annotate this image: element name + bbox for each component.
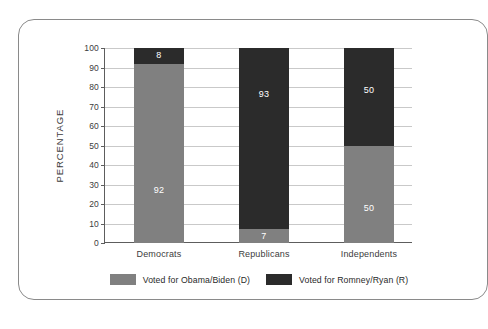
y-axis-tick-label: 80 bbox=[89, 82, 99, 92]
y-axis-tick-label: 70 bbox=[89, 102, 99, 112]
x-axis-category-label: Republicans bbox=[209, 249, 319, 259]
y-axis-tickmark bbox=[101, 126, 105, 127]
bar-value-label: 7 bbox=[261, 232, 266, 241]
y-axis-tick-label: 90 bbox=[89, 63, 99, 73]
bar-value-label: 50 bbox=[364, 204, 375, 213]
y-axis-tick-label: 0 bbox=[94, 238, 99, 248]
y-axis-tick-label: 20 bbox=[89, 199, 99, 209]
y-axis-tickmark bbox=[101, 48, 105, 49]
bar-group[interactable]: 5050 bbox=[344, 48, 394, 243]
legend-color-swatch bbox=[110, 274, 136, 285]
y-axis-title: PERCENTAGE bbox=[52, 48, 66, 243]
y-axis-tickmark bbox=[101, 68, 105, 69]
legend-entry[interactable]: Voted for Romney/Ryan (R) bbox=[266, 274, 408, 285]
legend-label: Voted for Romney/Ryan (R) bbox=[299, 275, 408, 285]
legend-label: Voted for Obama/Biden (D) bbox=[143, 275, 250, 285]
bar-value-label: 50 bbox=[364, 86, 375, 95]
x-axis-category-label: Democrats bbox=[104, 249, 214, 259]
y-axis-tick-label: 50 bbox=[89, 141, 99, 151]
x-axis-category-label: Independents bbox=[314, 249, 424, 259]
bar-segment-romney-ryan[interactable]: 93 bbox=[239, 48, 289, 229]
y-axis-tickmark bbox=[101, 224, 105, 225]
bar-segment-romney-ryan[interactable]: 50 bbox=[344, 48, 394, 146]
chart-legend: Voted for Obama/Biden (D)Voted for Romne… bbox=[104, 274, 414, 285]
y-axis-tickmark bbox=[101, 185, 105, 186]
y-axis-tickmark bbox=[101, 107, 105, 108]
bar-segment-romney-ryan[interactable]: 8 bbox=[134, 48, 184, 64]
bar-segment-obama-biden[interactable]: 92 bbox=[134, 64, 184, 243]
legend-entry[interactable]: Voted for Obama/Biden (D) bbox=[110, 274, 250, 285]
bar-value-label: 93 bbox=[259, 90, 270, 99]
bar-value-label: 8 bbox=[156, 51, 161, 60]
legend-color-swatch bbox=[266, 274, 292, 285]
y-axis-tick-label: 60 bbox=[89, 121, 99, 131]
y-axis-tickmark bbox=[101, 87, 105, 88]
y-axis-tick-label: 30 bbox=[89, 180, 99, 190]
y-axis-tickmark bbox=[101, 165, 105, 166]
y-axis-tickmark bbox=[101, 243, 105, 244]
y-axis-tick-label: 10 bbox=[89, 219, 99, 229]
bar-group[interactable]: 793 bbox=[239, 48, 289, 243]
y-axis-tick-label: 40 bbox=[89, 160, 99, 170]
y-axis-tickmark bbox=[101, 146, 105, 147]
y-axis-tickmark bbox=[101, 204, 105, 205]
bar-segment-obama-biden[interactable]: 7 bbox=[239, 229, 289, 243]
bar-segment-obama-biden[interactable]: 50 bbox=[344, 146, 394, 244]
bar-value-label: 92 bbox=[154, 186, 165, 195]
y-axis-tick-label: 100 bbox=[84, 43, 99, 53]
bar-group[interactable]: 928 bbox=[134, 48, 184, 243]
